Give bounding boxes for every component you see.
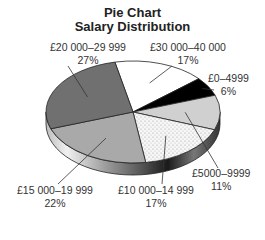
slice-label-text: £20 000–29 999: [50, 41, 126, 54]
slice-percent: 11%: [192, 180, 250, 193]
slice-label-0-4999: £0–4999 6%: [208, 72, 249, 98]
slice-percent: 17%: [150, 54, 226, 67]
slice-label-text: £10 000–14 999: [118, 184, 194, 197]
slice-label-text: £15 000–19 999: [17, 184, 93, 197]
slice-label-10000-14999: £10 000–14 999 17%: [118, 184, 194, 210]
slice-label-text: £5000–9999: [192, 167, 250, 180]
slice-label-text: £0–4999: [208, 72, 249, 85]
slice-label-15000-19999: £15 000–19 999 22%: [17, 184, 93, 210]
slice-label-20000-29999: £20 000–29 999 27%: [50, 41, 126, 67]
slice-percent: 22%: [17, 197, 93, 210]
slice-percent: 27%: [50, 54, 126, 67]
slice-label-5000-9999: £5000–9999 11%: [192, 167, 250, 193]
slice-percent: 17%: [118, 197, 194, 210]
slice-percent: 6%: [208, 85, 249, 98]
slice-label-30000-40000: £30 000–40 000 17%: [150, 41, 226, 67]
pie-slices: [46, 61, 220, 175]
slice-label-text: £30 000–40 000: [150, 41, 226, 54]
